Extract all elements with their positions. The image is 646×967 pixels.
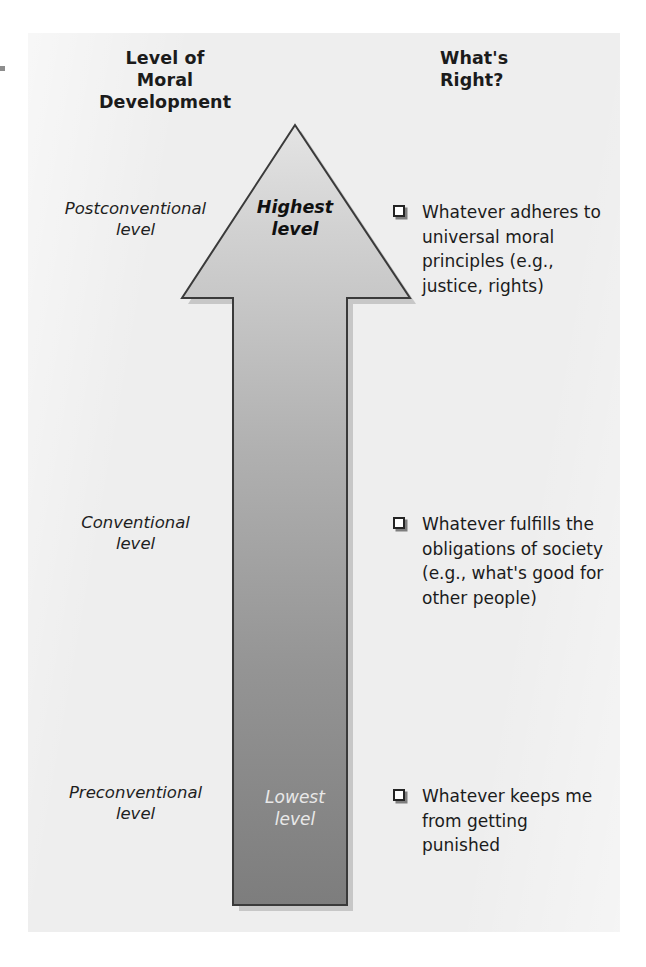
list-item: Whatever keeps me from getting punished	[393, 784, 625, 858]
level-label-preconventional: Preconventional level	[28, 782, 243, 824]
figure-page: Level of Moral Development What's Right?…	[0, 0, 646, 967]
level-label-postconventional: Postconventional level	[28, 198, 243, 240]
checkbox-icon	[393, 789, 405, 801]
list-item: Whatever fulfills the obligations of soc…	[393, 512, 625, 610]
level-label-conventional: Conventional level	[28, 512, 243, 554]
checkbox-icon	[393, 517, 405, 529]
checkbox-icon	[393, 205, 405, 217]
column-header-whats-right: What's Right?	[440, 47, 620, 91]
whats-right-text-postconventional: Whatever adheres to universal moral prin…	[422, 200, 625, 298]
list-item: Whatever adheres to universal moral prin…	[393, 200, 625, 298]
column-header-level-of-moral-development: Level of Moral Development	[60, 47, 270, 113]
whats-right-text-preconventional: Whatever keeps me from getting punished	[422, 784, 625, 858]
scan-artifact-mark	[0, 66, 5, 71]
whats-right-text-conventional: Whatever fulfills the obligations of soc…	[422, 512, 625, 610]
